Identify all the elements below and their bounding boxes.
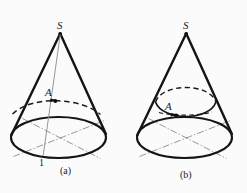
panel-a-axis-major [14,121,105,157]
panel-a-point-label: A [45,87,52,98]
panel-b-base-ellipse [137,117,232,158]
cone-figure-svg [0,0,247,193]
panel-a-base-label: 1 [39,158,44,168]
panel-b-caption: (b) [180,170,192,180]
figure-container: S A 1 (a) S A (b) [0,0,247,193]
panel-a-base-ellipse [11,117,106,158]
panel-b-group [137,32,232,159]
panel-a-apex-label: S [57,20,63,31]
panel-a-caption: (a) [60,166,71,176]
panel-b-apex-dot [184,32,188,36]
panel-b-axis-major [140,121,231,157]
panel-b-point-label: A [165,101,172,112]
panel-b-apex-label: S [183,20,189,31]
panel-a-group [11,32,106,159]
